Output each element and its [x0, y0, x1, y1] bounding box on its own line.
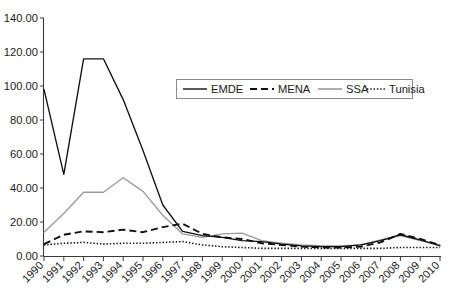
legend-label-emde: EMDE: [211, 83, 243, 95]
x-tick-label: 1991: [39, 259, 65, 285]
x-tick-label: 1997: [158, 259, 184, 285]
series-line-ssa: [44, 178, 440, 246]
chart-legend: EMDE MENA SSA Tunisia: [177, 80, 426, 99]
x-tick-label: 2005: [317, 259, 343, 285]
x-tick-label: 2002: [257, 259, 283, 285]
x-tick-label: 1993: [79, 259, 105, 285]
x-tick-label: 2001: [237, 259, 263, 285]
x-tick-label: 1999: [198, 259, 224, 285]
x-tick-label: 1995: [119, 259, 145, 285]
x-tick-label: 2009: [396, 259, 422, 285]
x-tick-label: 2003: [277, 259, 303, 285]
y-axis-tick-labels: 0.0020.0040.0060.0080.00100.00120.00140.…: [4, 12, 38, 262]
x-tick-label: 1990: [20, 259, 46, 285]
line-chart: 0.0020.0040.0060.0080.00100.00120.00140.…: [0, 0, 458, 296]
x-tick-label: 1998: [178, 259, 204, 285]
y-tick-label: 20.00: [10, 216, 38, 228]
y-tick-label: 120.00: [4, 46, 38, 58]
legend-label-ssa: SSA: [346, 83, 369, 95]
y-tick-label: 80.00: [10, 114, 38, 126]
y-tick-label: 100.00: [4, 80, 38, 92]
x-tick-label: 2007: [356, 259, 382, 285]
x-tick-label: 2000: [218, 259, 244, 285]
x-tick-label: 2006: [336, 259, 362, 285]
x-tick-label: 1992: [59, 259, 85, 285]
x-axis-tick-labels: 1990199119921993199419951996199719981999…: [20, 259, 442, 285]
x-tick-label: 2008: [376, 259, 402, 285]
legend-label-tunisia: Tunisia: [389, 83, 425, 95]
y-tick-label: 140.00: [4, 12, 38, 24]
legend-label-mena: MENA: [278, 83, 311, 95]
x-tick-label: 1994: [99, 259, 125, 285]
y-tick-label: 40.00: [10, 182, 38, 194]
chart-svg: 0.0020.0040.0060.0080.00100.00120.00140.…: [0, 0, 458, 296]
x-tick-label: 2010: [416, 259, 442, 285]
y-tick-label: 60.00: [10, 148, 38, 160]
x-tick-label: 2004: [297, 259, 323, 285]
x-tick-label: 1996: [138, 259, 164, 285]
